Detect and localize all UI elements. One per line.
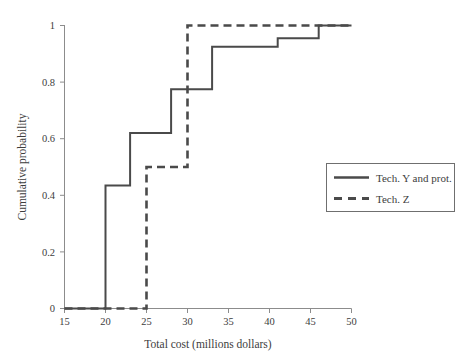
y-axis-title: Cumulative probability <box>16 113 29 220</box>
chart-svg: 0 0.2 0.4 0.6 0.8 1 15 20 25 30 35 40 45… <box>0 0 463 363</box>
x-tick-label-40: 40 <box>264 316 275 327</box>
x-tick-label-30: 30 <box>182 316 193 327</box>
y-tick-label-0-4: 0.4 <box>42 190 56 201</box>
axes <box>65 25 352 309</box>
x-axis-ticks: 15 20 25 30 35 40 45 50 <box>59 309 357 328</box>
legend: Tech. Y and prot. Tech. Z <box>327 164 455 212</box>
y-tick-label-0-6: 0.6 <box>42 133 55 144</box>
series-tech-y-and-prot <box>65 26 352 309</box>
x-axis-title: Total cost (millions dollars) <box>144 338 271 351</box>
series-group <box>65 26 352 309</box>
x-tick-label-35: 35 <box>223 316 234 327</box>
y-tick-label-0-8: 0.8 <box>42 77 55 88</box>
legend-label-0: Tech. Y and prot. <box>376 172 452 184</box>
y-tick-label-0-2: 0.2 <box>42 247 55 258</box>
x-tick-label-15: 15 <box>59 316 70 327</box>
legend-label-1: Tech. Z <box>376 193 410 205</box>
y-axis-ticks: 0 0.2 0.4 0.6 0.8 1 <box>42 20 65 314</box>
x-tick-label-20: 20 <box>100 316 111 327</box>
y-tick-label-0: 0 <box>50 303 55 314</box>
x-tick-label-50: 50 <box>346 316 357 327</box>
series-tech-z <box>65 26 352 309</box>
cumulative-probability-chart: 0 0.2 0.4 0.6 0.8 1 15 20 25 30 35 40 45… <box>0 0 463 363</box>
x-tick-label-45: 45 <box>305 316 316 327</box>
y-tick-label-1: 1 <box>50 20 55 31</box>
x-tick-label-25: 25 <box>141 316 152 327</box>
